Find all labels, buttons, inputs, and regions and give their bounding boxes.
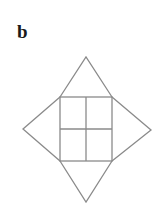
right-triangle	[112, 97, 151, 161]
top-triangle	[60, 57, 112, 97]
bottom-triangle	[60, 161, 112, 202]
left-triangle	[23, 97, 60, 161]
pyramid-net-diagram	[0, 0, 161, 208]
